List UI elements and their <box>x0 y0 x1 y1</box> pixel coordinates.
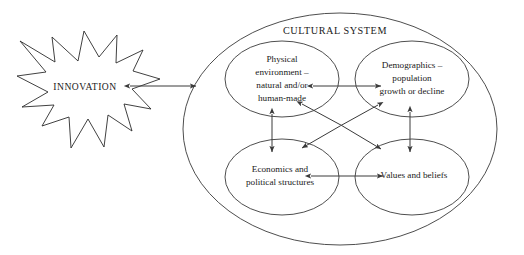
node-demographics-line-2: population <box>392 73 432 83</box>
cultural-system-boundary <box>183 13 497 245</box>
node-physical-environment-line-4: human-made <box>258 93 306 103</box>
innovation-label: INNOVATION <box>53 81 116 92</box>
node-economics-line-2: political structures <box>246 177 315 187</box>
cultural-system-diagram: CULTURAL SYSTEM INNOVATION Physical envi… <box>0 0 524 255</box>
node-physical-environment-line-1: Physical <box>266 54 298 64</box>
diagram-canvas: CULTURAL SYSTEM INNOVATION Physical envi… <box>0 0 524 255</box>
node-economics-line-1: Economics and <box>252 164 309 174</box>
node-demographics-line-3: growth or decline <box>380 86 445 96</box>
node-values-line-1: Values and beliefs <box>381 170 448 180</box>
node-demographics-line-1: Demographics – <box>382 60 443 70</box>
node-physical-environment-line-3: natural and/or <box>256 80 307 90</box>
node-physical-environment-shape <box>225 41 339 117</box>
cultural-system-title: CULTURAL SYSTEM <box>283 25 387 36</box>
node-physical-environment-line-2: environment – <box>255 67 309 77</box>
connector-demographics-to-economics <box>302 105 378 148</box>
